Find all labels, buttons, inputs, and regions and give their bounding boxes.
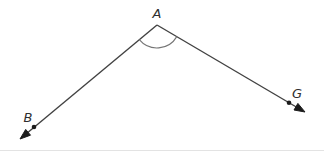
vertex-a-label: A — [152, 6, 162, 21]
point-b-label: B — [24, 110, 33, 125]
point-b-dot — [32, 125, 37, 130]
ray-a-g — [157, 25, 298, 108]
point-g-label: G — [292, 86, 302, 101]
point-g-dot — [287, 101, 292, 106]
angle-diagram-canvas: A B G — [0, 0, 324, 151]
ray-a-b — [26, 25, 157, 134]
arrowhead-g-icon — [294, 103, 305, 112]
geometry-figure: A B G — [0, 0, 324, 151]
angle-arc — [139, 37, 177, 48]
